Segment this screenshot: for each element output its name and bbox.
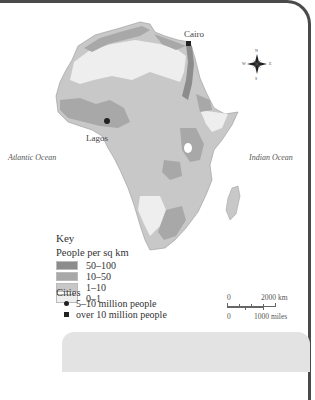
city-class-row: over 10 million people [56,309,167,320]
scale-miles-end: 1000 miles [254,312,287,321]
city-label-cairo: Cairo [184,29,204,39]
density-class-row: 50–100 [56,260,129,271]
scale-km-start: 0 [227,293,231,302]
ocean-label-atlantic: Atlantic Ocean [8,153,56,162]
compass-e-label: E [269,61,271,66]
ocean-label-indian: Indian Ocean [249,153,293,162]
density-label: 10–50 [86,271,111,282]
density-class-row: 10–50 [56,271,129,282]
cities-title: Cities [56,287,167,298]
density-swatch [56,261,78,270]
city-class-label: over 10 million people [76,309,167,320]
lake-victoria [184,143,192,153]
density-label: 50–100 [86,260,116,271]
compass-rose [247,54,267,74]
info-panel [62,332,310,372]
circle-icon [64,301,69,306]
density-title: People per sq km [56,247,129,258]
scale-miles-start: 0 [227,312,231,321]
compass-w-label: W [242,61,246,66]
compass-s-label: S [255,76,257,81]
scale-bar: 0 2000 km 0 1000 miles [227,293,307,321]
square-icon [64,312,69,317]
city-class-label: 5–10 million people [76,298,157,309]
compass-n-label: N [255,48,258,53]
key-title: Key [56,232,129,244]
city-label-lagos: Lagos [86,133,108,143]
cities-key: Cities 5–10 million people over 10 milli… [56,287,167,320]
city-marker-lagos [104,118,110,124]
scale-km-end: 2000 km [261,293,287,302]
density-swatch [56,272,78,281]
city-marker-cairo [186,41,191,46]
madagascar [226,186,240,220]
city-class-row: 5–10 million people [56,298,167,309]
